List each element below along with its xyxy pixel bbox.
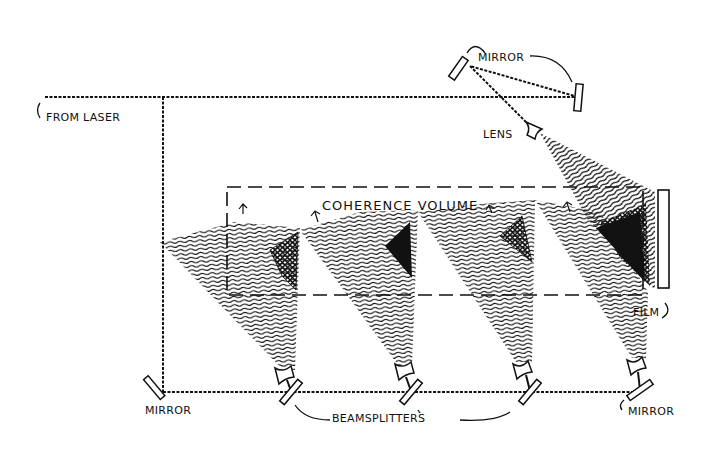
label-lens: LENS — [483, 128, 513, 141]
object-beam-cones — [160, 200, 648, 370]
label-film: FILM — [633, 306, 659, 319]
label-mirror-bottom-right: MIRROR — [628, 405, 674, 418]
lens-reference — [526, 122, 542, 139]
mirror-top-right — [574, 84, 583, 112]
film-plate — [658, 190, 669, 288]
label-beamsplitters: BEAMSPLITTERS — [332, 412, 425, 425]
label-mirror-bottom-left: MIRROR — [145, 404, 191, 417]
diverging-lenses — [275, 357, 646, 384]
label-coherence-volume: COHERENCE VOLUME — [322, 198, 478, 213]
holography-diagram — [0, 0, 721, 451]
label-from-laser: FROM LASER — [46, 111, 120, 124]
mirror-top-left — [449, 56, 468, 80]
lens-3 — [513, 361, 532, 379]
label-mirror-top: MIRROR — [478, 51, 524, 64]
lens-4 — [627, 357, 646, 375]
mirror-bottom-left — [144, 376, 165, 400]
